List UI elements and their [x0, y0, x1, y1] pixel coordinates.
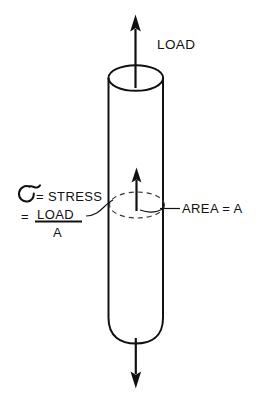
label-area: AREA = A: [182, 201, 243, 216]
label-fraction-denominator: A: [53, 225, 62, 240]
diagram-canvas: LOAD = STRESS = LOAD A AREA = A: [0, 0, 257, 401]
internal-force-arrow: [132, 168, 142, 212]
load-arrow-up-head: [130, 15, 141, 32]
stress-diagram-figure: LOAD = STRESS = LOAD A AREA = A: [0, 0, 257, 401]
label-stress-definition: = STRESS: [36, 189, 102, 204]
load-arrow-down-head: [131, 372, 142, 389]
label-fraction-numerator: LOAD: [37, 207, 74, 222]
load-arrow-up: [130, 15, 141, 89]
label-load-top: LOAD: [157, 37, 195, 52]
label-equals-sign: =: [21, 209, 29, 224]
leader-line-stress-tail: [140, 209, 164, 213]
load-arrow-down: [131, 338, 142, 389]
